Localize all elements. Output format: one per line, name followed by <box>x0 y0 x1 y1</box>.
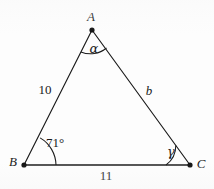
angle-label-A-alpha: α <box>86 42 102 55</box>
vertex-label-C: C <box>194 157 208 170</box>
vertex-dot-A <box>89 27 94 32</box>
vertex-label-A: A <box>84 10 98 23</box>
side-label-BC-length: 11 <box>96 169 116 182</box>
triangle-diagram-canvas <box>0 0 214 189</box>
angle-label-B-degrees: 71° <box>42 136 68 149</box>
vertex-label-B: B <box>6 155 20 168</box>
vertex-dot-C <box>187 162 192 167</box>
side-label-AB-length: 10 <box>35 83 55 96</box>
angle-label-C-gamma: γ <box>164 145 178 158</box>
triangle-figure: A B C 10 b 11 α 71° γ <box>0 0 214 189</box>
vertex-dot-B <box>21 162 26 167</box>
side-label-AC-length: b <box>142 84 156 97</box>
